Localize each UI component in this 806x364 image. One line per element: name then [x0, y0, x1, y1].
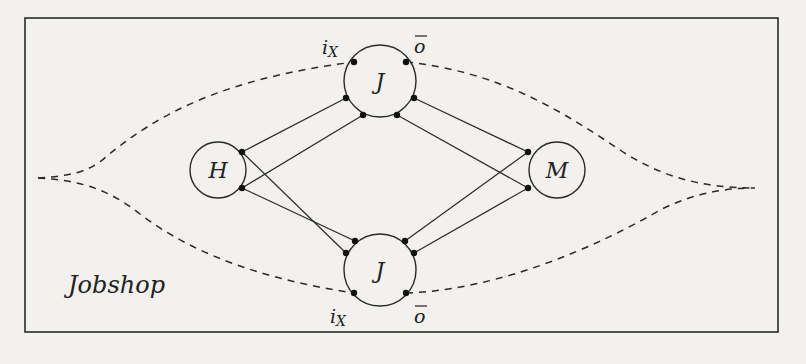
diagram-title: Jobshop — [63, 271, 165, 299]
port-dot — [403, 290, 409, 296]
node-h-label: H — [207, 158, 228, 183]
port-dot — [525, 149, 531, 155]
port-dot — [403, 59, 409, 65]
port-label-bottom-input: iX — [330, 305, 347, 329]
svg-text:o: o — [414, 35, 425, 57]
svg-text:o: o — [414, 305, 425, 327]
port-dot — [239, 149, 245, 155]
jobshop-diagram: J J H M iX o iX o Jobshop — [0, 0, 806, 364]
port-dot — [352, 238, 358, 244]
solid-connections — [242, 98, 528, 253]
edge-jtop-m-2 — [397, 115, 528, 188]
port-label-bottom-output: o — [414, 305, 427, 327]
port-dot — [343, 95, 349, 101]
port-dot — [343, 250, 349, 256]
edge-jbottom-m-1 — [405, 152, 528, 241]
diagram-canvas: J J H M iX o iX o Jobshop — [0, 0, 806, 364]
port-dot — [525, 185, 531, 191]
dashed-curve-bottom-right — [406, 188, 755, 293]
edge-h-jtop-1 — [242, 98, 346, 152]
edge-h-jtop-2 — [242, 115, 363, 188]
port-dot — [411, 250, 417, 256]
edge-jbottom-m-2 — [414, 188, 528, 253]
node-m-label: M — [545, 158, 569, 183]
port-dot — [402, 238, 408, 244]
port-dot — [239, 185, 245, 191]
port-dot — [394, 112, 400, 118]
port-dot — [351, 290, 357, 296]
port-label-top-output: o — [414, 35, 427, 57]
port-dot — [351, 59, 357, 65]
edge-jtop-m-1 — [414, 98, 528, 152]
port-dot — [360, 112, 366, 118]
port-label-top-input: iX — [322, 36, 339, 60]
edge-h-jbottom-1 — [242, 152, 346, 253]
edge-h-jbottom-2 — [242, 188, 355, 241]
port-dot — [411, 95, 417, 101]
